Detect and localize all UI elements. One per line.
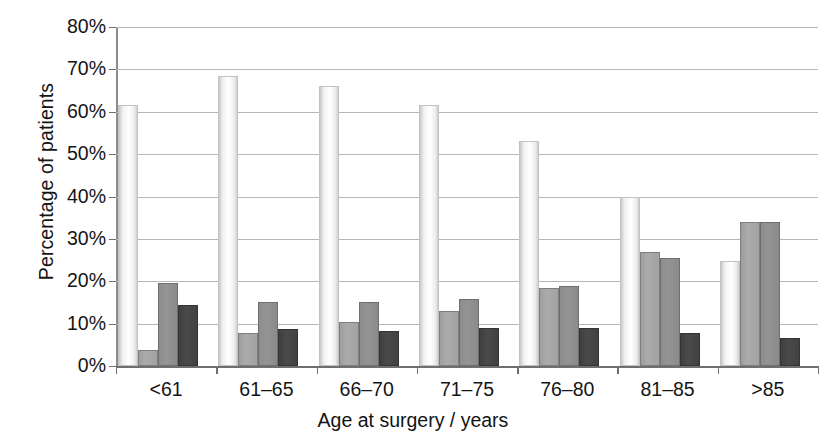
y-axis-tick-mark — [109, 27, 116, 28]
x-axis-tick-mark — [818, 366, 819, 374]
bar — [419, 105, 439, 366]
bar — [278, 329, 298, 366]
y-axis-tick-mark — [109, 281, 116, 282]
bar-group — [519, 27, 599, 366]
x-axis-category-label: >85 — [751, 378, 784, 401]
bar — [579, 328, 599, 366]
y-axis-tick-label: 40% — [34, 185, 106, 208]
bar-group — [620, 27, 700, 366]
y-axis-tick-mark — [109, 324, 116, 325]
y-axis-tick-label: 50% — [34, 142, 106, 165]
bar — [740, 222, 760, 366]
x-axis-category-label: 81–85 — [640, 378, 694, 401]
bar — [720, 261, 740, 366]
bar-group — [419, 27, 499, 366]
plot-area: 0%10%20%30%40%50%60%70%80% — [116, 27, 818, 366]
bar-group — [218, 27, 298, 366]
y-axis-tick-mark — [109, 366, 116, 367]
bar — [459, 299, 479, 366]
bar — [339, 322, 359, 366]
x-axis-category-label: 71–75 — [440, 378, 494, 401]
bar — [479, 328, 499, 366]
bar — [660, 258, 680, 366]
x-axis-title: Age at surgery / years — [0, 409, 826, 432]
bar — [118, 105, 138, 366]
bar-group — [118, 27, 198, 366]
bar — [238, 333, 258, 366]
x-axis-line — [116, 366, 819, 368]
y-axis-tick-label: 70% — [34, 57, 106, 80]
y-axis-tick-label: 30% — [34, 227, 106, 250]
bar — [519, 141, 539, 366]
x-axis-category-label: 61–65 — [239, 378, 293, 401]
bar — [680, 333, 700, 366]
bar — [158, 283, 178, 366]
bar — [138, 350, 158, 366]
bar — [640, 252, 660, 366]
y-axis-tick-mark — [109, 197, 116, 198]
bar — [439, 311, 459, 366]
bar — [760, 222, 780, 366]
y-axis-tick-mark — [109, 154, 116, 155]
y-axis-tick-label: 20% — [34, 269, 106, 292]
bar — [359, 302, 379, 366]
bar — [539, 288, 559, 366]
y-axis-tick-label: 80% — [34, 15, 106, 38]
y-axis-tick-mark — [109, 239, 116, 240]
bar-group — [720, 27, 800, 366]
bars-layer — [116, 27, 818, 366]
bar — [379, 331, 399, 366]
x-axis-tick-mark — [216, 366, 217, 374]
bar — [559, 286, 579, 367]
x-axis-tick-mark — [517, 366, 518, 374]
bar-chart: Percentage of patients 0%10%20%30%40%50%… — [0, 0, 826, 446]
bar — [780, 338, 800, 366]
x-axis-tick-mark — [617, 366, 618, 374]
x-axis-category-label: <61 — [150, 378, 183, 401]
x-axis-tick-mark — [116, 366, 117, 374]
x-axis-tick-mark — [417, 366, 418, 374]
bar — [178, 305, 198, 366]
bar-group — [319, 27, 399, 366]
y-axis-tick-mark — [109, 112, 116, 113]
bar — [258, 302, 278, 366]
x-axis-tick-mark — [317, 366, 318, 374]
y-axis-tick-label: 0% — [34, 354, 106, 377]
y-axis-tick-mark — [109, 69, 116, 70]
y-axis-tick-label: 60% — [34, 100, 106, 123]
x-axis-category-label: 66–70 — [340, 378, 394, 401]
bar — [620, 197, 640, 367]
bar — [319, 86, 339, 366]
bar — [218, 76, 238, 366]
x-axis-category-label: 76–80 — [540, 378, 594, 401]
x-axis-tick-mark — [718, 366, 719, 374]
y-axis-tick-label: 10% — [34, 312, 106, 335]
